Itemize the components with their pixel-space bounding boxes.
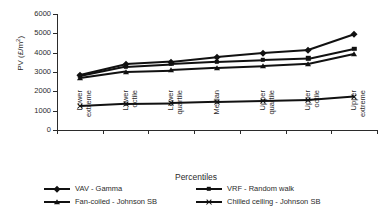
data-point-marker [122, 100, 129, 107]
data-point-marker [305, 97, 312, 104]
series-line-segment [80, 103, 126, 107]
legend-label: VRF - Random walk [227, 184, 294, 193]
data-point-marker [168, 100, 175, 107]
data-point-marker [351, 93, 358, 100]
legend-item[interactable]: VAV - Gamma [44, 184, 196, 193]
y-tick-label: 2000 [21, 87, 51, 95]
x-tick [194, 130, 195, 134]
plot-area [57, 14, 377, 130]
series-line-segment [171, 101, 217, 104]
x-tick [57, 130, 58, 134]
series-line-segment [217, 100, 263, 103]
legend-marker-glyph [54, 186, 60, 192]
legend-marker-glyph [54, 199, 60, 204]
legend-marker-triangle-icon [44, 197, 70, 206]
legend-label: Fan-coiled - Johnson SB [75, 197, 157, 206]
y-tick-label: 3000 [21, 68, 51, 76]
series-line-segment [308, 96, 354, 101]
y-tick-label: 4000 [21, 49, 51, 57]
data-point-marker [259, 98, 266, 105]
chart-figure: PV (£/m2) 0100020003000400050006000 Lowe… [0, 0, 392, 218]
data-point-marker [214, 99, 221, 106]
legend-label: VAV - Gamma [75, 184, 122, 193]
x-tick [240, 130, 241, 134]
x-tick [103, 130, 104, 134]
series-4 [57, 14, 377, 130]
y-tick-label: 6000 [21, 10, 51, 18]
x-tick [148, 130, 149, 134]
y-axis-title-exponent: 2 [15, 39, 21, 42]
legend-item[interactable]: Chilled ceiling - Johnson SB [196, 197, 354, 206]
x-axis-title: Percentiles [0, 172, 392, 182]
series-line-segment [263, 99, 309, 102]
x-tick [331, 130, 332, 134]
legend-marker-square-icon [196, 184, 222, 193]
y-tick-label: 1000 [21, 107, 51, 115]
legend-marker-x-icon [196, 197, 222, 206]
series-line-segment [126, 102, 172, 104]
legend-marker-glyph [207, 187, 211, 191]
chart-legend: VAV - GammaVRF - Random walkFan-coiled -… [44, 184, 354, 206]
y-tick-label: 5000 [21, 29, 51, 37]
legend-item[interactable]: Fan-coiled - Johnson SB [44, 197, 196, 206]
x-tick [377, 130, 378, 134]
data-point-marker [76, 102, 83, 109]
legend-marker-glyph [206, 198, 213, 205]
legend-marker-diamond-icon [44, 184, 70, 193]
legend-label: Chilled ceiling - Johnson SB [227, 197, 320, 206]
y-tick-label: 0 [21, 126, 51, 134]
legend-item[interactable]: VRF - Random walk [196, 184, 354, 193]
x-tick [286, 130, 287, 134]
